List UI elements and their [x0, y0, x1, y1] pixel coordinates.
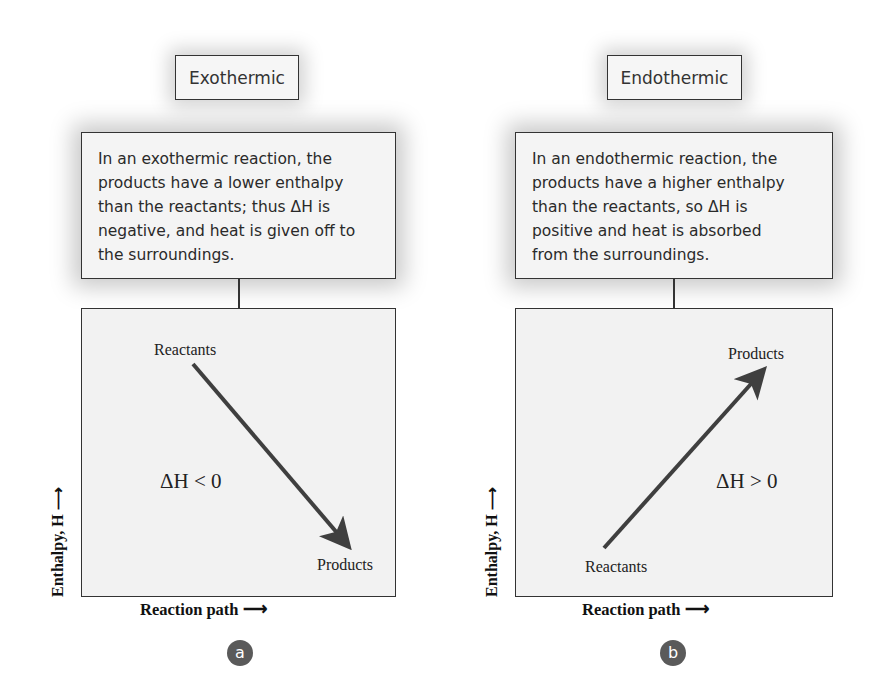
y-axis-label: Enthalpy, H ⟶ — [482, 487, 501, 597]
description-line: products have a higher enthalpy — [532, 171, 816, 195]
panel-endothermic: Endothermic In an endothermic reaction, … — [0, 0, 440, 700]
connector-line — [673, 278, 675, 308]
x-axis-label: Reaction path ⟶ — [582, 600, 709, 620]
panel-marker-b: b — [660, 640, 686, 666]
endothermic-enthalpy-diagram: Products Reactants ΔH > 0 — [515, 308, 833, 597]
upward-arrow-icon — [516, 309, 834, 598]
up-arrow-icon: ⟶ — [483, 487, 500, 510]
right-arrow-icon: ⟶ — [685, 600, 709, 619]
x-axis-text: Reaction path — [582, 600, 681, 619]
reactants-label: Reactants — [585, 558, 647, 576]
description-line: from the surroundings. — [532, 243, 816, 267]
endothermic-title-box: Endothermic — [607, 55, 742, 100]
description-line: positive and heat is absorbed — [532, 219, 816, 243]
y-axis-text: Enthalpy, H — [483, 514, 500, 597]
endothermic-title: Endothermic — [621, 68, 729, 88]
description-line: than the reactants, so ΔH is — [532, 195, 816, 219]
description-line: In an endothermic reaction, the — [532, 147, 816, 171]
endothermic-description-box: In an endothermic reaction, the products… — [515, 132, 833, 279]
delta-h-label: ΔH > 0 — [716, 469, 778, 494]
products-label: Products — [728, 345, 784, 363]
